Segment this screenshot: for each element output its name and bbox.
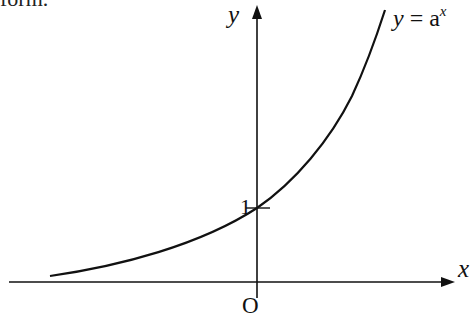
origin-label: O xyxy=(242,294,259,317)
exponential-curve xyxy=(50,10,385,276)
curve-eq-exponent: x xyxy=(440,3,447,19)
curve-eq-rhs: = a xyxy=(404,5,440,31)
y-axis-label: y xyxy=(228,2,239,27)
x-axis-label: x xyxy=(458,256,469,281)
y-axis-arrow-icon xyxy=(252,5,262,19)
curve-eq-lhs: y xyxy=(393,5,404,31)
curve-equation-label: y = ax xyxy=(393,4,447,30)
y-intercept-label: 1 xyxy=(240,196,251,218)
exponential-graph xyxy=(0,0,474,320)
x-axis-arrow-icon xyxy=(441,277,455,287)
